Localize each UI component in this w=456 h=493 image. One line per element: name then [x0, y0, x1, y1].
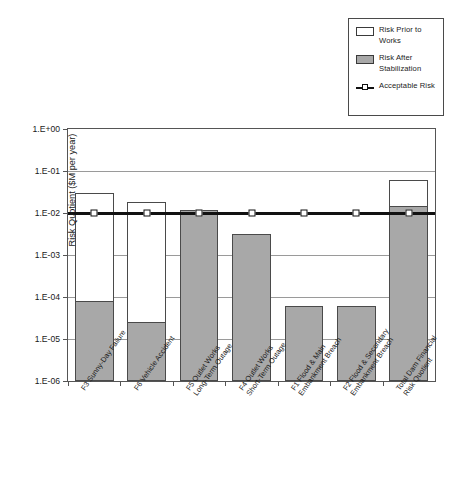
acceptable-risk-marker — [91, 210, 98, 217]
line-marker-icon — [356, 83, 374, 92]
white-rect-icon — [356, 27, 374, 36]
x-axis-tick — [383, 381, 384, 386]
x-axis-tick — [120, 381, 121, 386]
y-axis-tick-label: 1.E-03 — [35, 250, 60, 260]
y-axis-tick-label: 1.E-06 — [35, 376, 60, 386]
acceptable-risk-marker — [353, 210, 360, 217]
chart-legend: Risk Prior to Works Risk After Stabiliza… — [348, 18, 444, 116]
x-axis-tick — [330, 381, 331, 386]
y-axis-title: Risk Quotient ($M per year) — [67, 110, 77, 270]
legend-label-risk-after: Risk After Stabilization — [379, 53, 438, 74]
legend-item-acceptable-risk: Acceptable Risk — [356, 81, 438, 92]
y-axis-tick — [63, 339, 68, 340]
x-axis-tick — [278, 381, 279, 386]
y-axis-tick-label: 1.E+00 — [33, 124, 60, 134]
acceptable-risk-marker — [248, 210, 255, 217]
legend-label-risk-prior: Risk Prior to Works — [379, 25, 438, 46]
y-gridline — [68, 171, 435, 172]
y-axis-tick-label: 1.E-01 — [35, 166, 60, 176]
acceptable-risk-marker — [300, 210, 307, 217]
x-axis-tick — [68, 381, 69, 386]
acceptable-risk-marker — [196, 210, 203, 217]
grey-rect-icon — [356, 55, 374, 64]
legend-label-acceptable-risk: Acceptable Risk — [379, 81, 435, 92]
y-axis-tick-label: 1.E-04 — [35, 292, 60, 302]
acceptable-risk-marker — [405, 210, 412, 217]
y-axis-tick-label: 1.E-05 — [35, 334, 60, 344]
legend-item-risk-after: Risk After Stabilization — [356, 53, 438, 74]
y-axis-tick-label: 1.E-02 — [35, 208, 60, 218]
acceptable-risk-marker — [143, 210, 150, 217]
y-axis-tick — [63, 297, 68, 298]
x-axis-tick — [225, 381, 226, 386]
legend-item-risk-prior: Risk Prior to Works — [356, 25, 438, 46]
x-axis-tick — [173, 381, 174, 386]
